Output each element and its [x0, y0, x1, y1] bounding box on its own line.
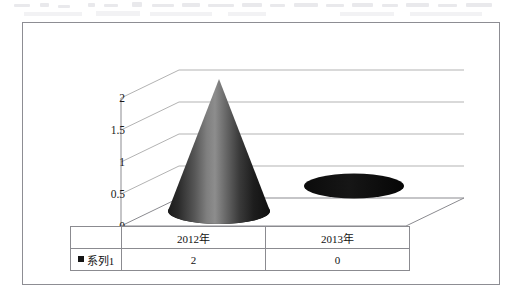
- legend-entry-series1: 系列1: [71, 249, 122, 271]
- gridline-2: [121, 70, 464, 98]
- data-point-2012: [168, 79, 270, 224]
- table-value-2013: 0: [266, 249, 410, 271]
- table-header-2013: 2013年: [266, 227, 410, 249]
- legend-square-marker-icon: [78, 256, 84, 262]
- table-header-2012: 2012年: [122, 227, 266, 249]
- axis-tick-1_5: 1.5: [85, 125, 125, 136]
- data-point-2013: [304, 174, 404, 199]
- axis-tick-1: 1: [85, 157, 125, 168]
- gridline-1_5: [121, 102, 464, 130]
- chart-data-table: 2012年 2013年 系列1 2 0: [70, 226, 410, 271]
- table-header-corner: [71, 227, 122, 249]
- legend-label-series1: 系列1: [87, 255, 115, 267]
- scan-artifact-strip: [0, 0, 521, 20]
- axis-tick-2: 2: [85, 93, 125, 104]
- table-value-2012: 2: [122, 249, 266, 271]
- axis-tick-0_5: 0.5: [85, 189, 125, 200]
- table-value-row: 系列1 2 0: [71, 249, 410, 271]
- chart-frame: 2 1.5 1 0.5 0 2012年 2013年 系列1 2 0: [22, 22, 500, 285]
- gridline-0_5: [121, 166, 464, 194]
- gridline-1: [121, 134, 464, 162]
- table-header-row: 2012年 2013年: [71, 227, 410, 249]
